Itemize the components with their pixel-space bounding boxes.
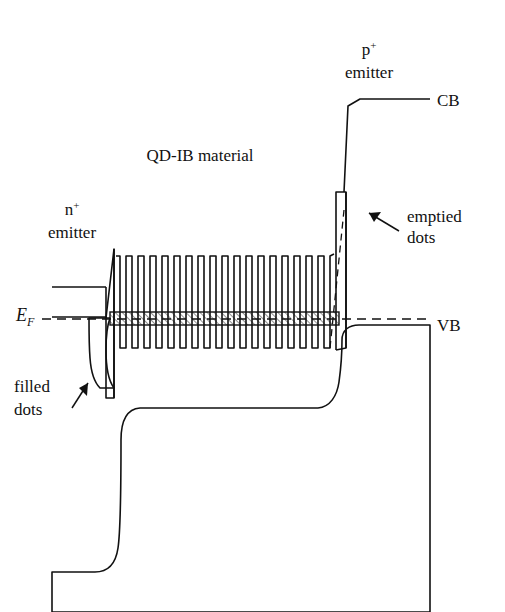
svg-text:p+: p+ <box>362 39 377 59</box>
emptied-dots-line2: dots <box>407 228 435 247</box>
filled-dots-line1: filled <box>14 377 50 396</box>
conduction-band-label: CB <box>437 91 460 110</box>
fermi-subscript: F <box>26 315 35 329</box>
n-emitter-label: n+ emitter <box>48 199 96 242</box>
p-emitter-superscript: + <box>370 39 376 51</box>
emptied-dots-arrowhead <box>369 212 381 222</box>
qd-ib-material-text: QD-IB material <box>146 146 253 165</box>
filled-dots-line2: dots <box>14 400 42 419</box>
band-diagram-figure: p+ emitter n+ emitter QD-IB material CB … <box>0 0 505 612</box>
svg-text:n+: n+ <box>65 199 80 219</box>
p-emitter-sublabel: emitter <box>345 63 393 82</box>
emptied-dots-line1: emptied <box>407 207 462 226</box>
cb-text: CB <box>437 91 460 110</box>
valence-band-label: VB <box>437 316 461 335</box>
fermi-level-label: EF <box>15 305 35 329</box>
filled-dots-region <box>89 318 114 388</box>
valence-band-region <box>52 325 430 612</box>
n-emitter-superscript: + <box>73 199 79 211</box>
p-emitter-conduction-band <box>344 99 430 192</box>
quantum-dot-comb <box>116 254 334 348</box>
emptied-dots-annotation: emptied dots <box>369 207 462 247</box>
filled-dots-annotation: filled dots <box>14 377 88 419</box>
p-emitter-base-text: p <box>362 40 371 59</box>
fermi-base-text: E <box>15 305 27 325</box>
p-emitter-label: p+ emitter <box>345 39 393 82</box>
svg-text:EF: EF <box>15 305 35 329</box>
vb-text: VB <box>437 316 461 335</box>
n-emitter-conduction-band <box>52 287 106 318</box>
n-emitter-sublabel: emitter <box>48 223 96 242</box>
qd-ib-material-label: QD-IB material <box>146 146 253 165</box>
emptied-dots-dashed-edge <box>330 210 344 348</box>
